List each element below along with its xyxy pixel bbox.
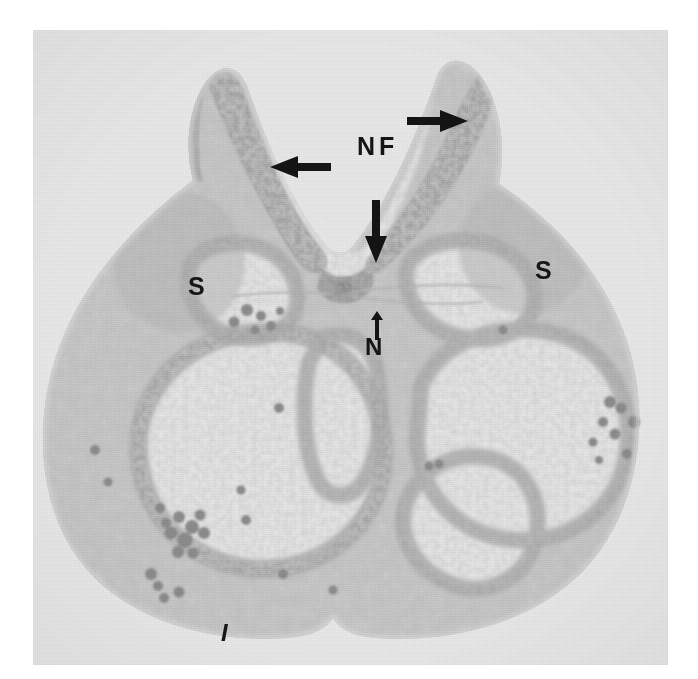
intestine-label: I bbox=[221, 621, 228, 645]
annotation-overlay: NF S S N I bbox=[33, 30, 668, 665]
neural-fold-label: NF bbox=[357, 134, 398, 159]
arrow-down-neural-groove bbox=[363, 200, 389, 264]
arrow-left-neural-fold bbox=[269, 154, 331, 180]
somite-label-left: S bbox=[188, 274, 205, 299]
notochord-label: N bbox=[365, 335, 382, 359]
figure-root: NF S S N I bbox=[0, 0, 698, 679]
somite-label-right: S bbox=[535, 258, 552, 283]
arrow-right-neural-fold bbox=[407, 108, 469, 134]
micrograph-plate: NF S S N I bbox=[33, 30, 668, 665]
